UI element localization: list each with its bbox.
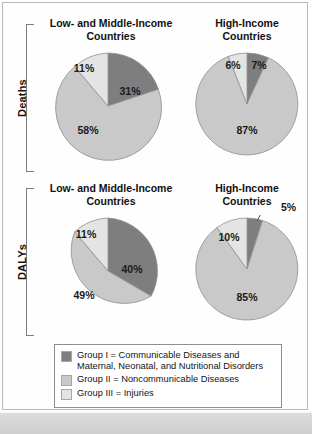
column-title-line2: Countries [222,30,271,42]
scan-edge-band [0,412,312,434]
pie-slice-label-group-ii: 87% [236,124,257,136]
pie-callout-label-group-i: 5% [281,201,296,213]
pie-svg [52,50,164,162]
column-title-line1: Low- and Middle-Income [50,182,173,194]
pie-chart-deaths-lmic: 31% 58% 11% [52,50,164,162]
pie-slice-label-group-ii: 58% [77,124,98,136]
row-label-deaths: Deaths [16,68,28,128]
pie-chart-dalys-hic: 5% 85% 10% [193,215,301,323]
pie-slice-label-group-iii: 11% [74,62,94,74]
legend-item-group-iii: Group III = Injuries [61,388,275,400]
column-title-line2: Countries [222,195,271,207]
column-title-line1: High-Income [215,17,279,29]
pie-slice-label-group-ii: 85% [236,291,257,303]
pie-slice-label-group-iii: 10% [218,231,239,243]
pie-slice-label-group-iii: 11% [76,228,96,240]
column-title-line2: Countries [86,195,135,207]
legend-swatch-group-ii [61,375,72,386]
pie-svg [193,215,301,323]
column-title-lmic-deaths: Low- and Middle-Income Countries [36,17,186,42]
legend-label-line1: Group I = Communicable Diseases and [77,350,240,360]
legend-label-group-iii: Group III = Injuries [77,388,154,399]
legend-label-group-i: Group I = Communicable Diseases and Mate… [77,350,263,372]
column-title-hic-deaths: High-Income Countries [192,17,302,42]
pie-svg [193,50,301,158]
pie-slice-label-group-i: 40% [121,263,142,275]
column-title-line2: Countries [86,30,135,42]
row-label-dalys: DALYs [16,232,28,292]
legend-label-group-ii: Group II = Noncommunicable Diseases [77,374,239,385]
legend-label-line2: Maternal, Neonatal, and Nutritional Diso… [77,361,263,372]
column-title-line1: High-Income [215,182,279,194]
legend-swatch-group-iii [61,389,72,400]
pie-slice-label-group-iii: 6% [225,59,240,71]
pie-svg [52,215,164,327]
pie-slice-label-group-i: 31% [119,85,140,97]
legend-item-group-ii: Group II = Noncommunicable Diseases [61,374,275,386]
pie-slice-label-group-ii: 49% [73,289,94,301]
pie-slice-label-group-i: 7% [251,59,266,71]
figure-panel: Deaths Low- and Middle-Income Countries … [0,0,312,434]
legend-swatch-group-i [61,351,72,362]
legend-item-group-i: Group I = Communicable Diseases and Mate… [61,350,275,372]
column-title-lmic-dalys: Low- and Middle-Income Countries [36,182,186,207]
legend-box: Group I = Communicable Diseases and Mate… [54,344,282,408]
pie-chart-deaths-hic: 7% 87% 6% [193,50,301,158]
column-title-line1: Low- and Middle-Income [50,17,173,29]
pie-chart-dalys-lmic: 40% 49% 11% [52,215,164,327]
